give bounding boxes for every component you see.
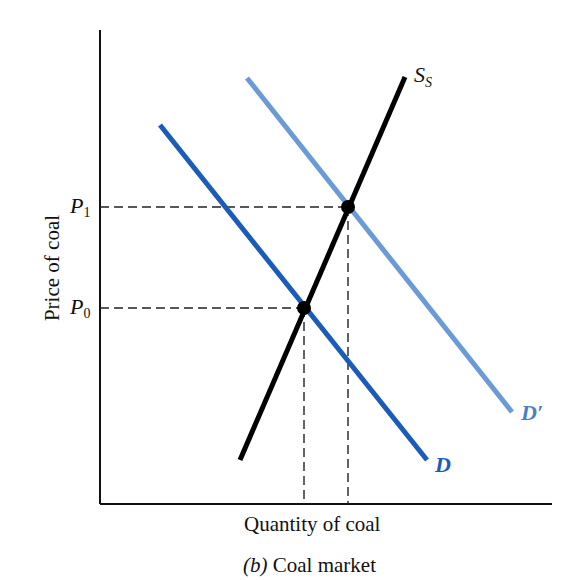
curve-label-d-prime: D′ [521,400,543,426]
p0-subscript: 0 [83,306,90,321]
d-text: D [435,452,451,477]
figure-caption: (b) Coal market [243,553,376,578]
ss-subscript: S [425,75,432,90]
d-prime-text: D′ [521,400,543,425]
p1-guides [100,207,348,504]
caption-prefix: (b) [243,553,268,577]
supply-demand-chart [0,0,578,580]
x-axis-label: Quantity of coal [244,512,380,537]
p0-guides [100,308,304,504]
p1-subscript: 1 [83,205,90,220]
equilibrium-point-p1 [341,200,355,214]
tick-label-p1: P1 [70,193,90,221]
equilibrium-point-p0 [297,301,311,315]
p0-letter: P [70,294,83,319]
y-axis-label: Price of coal [40,215,65,321]
ss-letter: S [414,62,425,87]
curve-label-ss: SS [414,62,432,91]
tick-label-p0: P0 [70,294,90,322]
p1-letter: P [70,193,83,218]
caption-text: Coal market [268,553,376,577]
demand-curve-d [160,125,427,460]
demand-curve-d-prime [247,78,512,412]
curve-label-d: D [435,452,451,478]
